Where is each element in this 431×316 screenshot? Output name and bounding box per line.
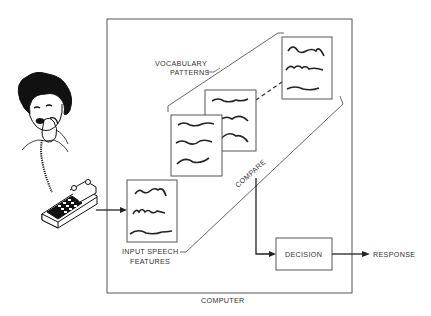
vocabulary-label-line1: VOCABULARY bbox=[155, 59, 207, 68]
arrowhead-icon bbox=[362, 251, 370, 257]
input-label-line1: INPUT SPEECH bbox=[122, 247, 179, 256]
compare-label: COMPARE bbox=[233, 157, 267, 189]
vocabulary-pattern-card-back bbox=[282, 37, 332, 99]
caller-illustration bbox=[18, 72, 71, 152]
response-label: RESPONSE bbox=[373, 250, 415, 259]
arrowhead-icon bbox=[120, 207, 127, 213]
input-label-line2: FEATURES bbox=[130, 257, 170, 266]
decision-label: DECISION bbox=[285, 250, 322, 259]
vocabulary-label-line2: PATTERNS bbox=[170, 68, 210, 77]
dashed-connector bbox=[256, 82, 282, 100]
telephone-icon bbox=[42, 180, 97, 229]
phone-cord bbox=[41, 140, 52, 192]
computer-label: COMPUTER bbox=[201, 296, 245, 305]
vocabulary-pattern-card-front bbox=[171, 115, 222, 176]
arrowhead-icon bbox=[269, 251, 276, 257]
input-speech-card bbox=[127, 180, 177, 242]
compare-to-decision-arrow bbox=[256, 178, 272, 254]
